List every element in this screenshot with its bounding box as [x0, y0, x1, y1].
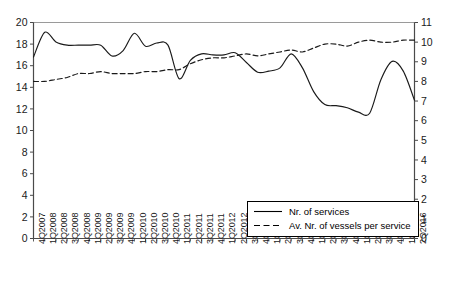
y-axis-left-tick-label: 16	[16, 59, 28, 71]
y-axis-left-tick-label: 4	[22, 189, 28, 201]
chart-container: 02468101214161820 01234567891011 4Q20071…	[0, 0, 465, 300]
y-axis-right-tick-label: 0	[421, 232, 427, 244]
y-axis-right-tick-label: 5	[421, 134, 427, 146]
y-axis-right-tick-label: 7	[421, 95, 427, 107]
legend-label-services: Nr. of services	[289, 205, 349, 219]
y-axis-right-tick-label: 3	[421, 173, 427, 185]
legend-key-dashed-line-icon	[253, 221, 283, 230]
y-axis-left-tick-label: 12	[16, 103, 28, 115]
y-axis-left-tick-label: 8	[22, 146, 28, 158]
y-axis-right-tick-label: 4	[421, 154, 427, 166]
y-axis-left-tick-label: 14	[16, 81, 28, 93]
chart-plot-area: 02468101214161820 01234567891011	[0, 0, 465, 300]
y-axis-left-tick-label: 0	[22, 232, 28, 244]
y-axis-right-tick-label: 1	[421, 213, 427, 225]
legend-key-solid-line-icon	[253, 207, 283, 216]
legend-item-services: Nr. of services	[253, 205, 411, 219]
legend-item-vessels: Av. Nr. of vessels per service	[253, 219, 411, 233]
y-axis-right-tick-label: 2	[421, 193, 427, 205]
y-axis-right-tick-label: 6	[421, 114, 427, 126]
y-axis-right-tick-label: 11	[421, 16, 432, 28]
y-axis-left-tick-label: 10	[16, 124, 28, 136]
y-axis-left-tick-label: 20	[16, 16, 28, 28]
chart-legend: Nr. of services Av. Nr. of vessels per s…	[247, 201, 419, 237]
y-axis-right-tick-label: 10	[421, 36, 433, 48]
y-axis-left-ticks: 02468101214161820	[16, 16, 34, 244]
y-axis-left-tick-label: 6	[22, 167, 28, 179]
y-axis-right-tick-label: 8	[421, 75, 427, 87]
y-axis-left-tick-label: 18	[16, 38, 28, 50]
legend-label-vessels: Av. Nr. of vessels per service	[289, 219, 411, 233]
y-axis-left-tick-label: 2	[22, 211, 28, 223]
y-axis-right-tick-label: 9	[421, 55, 427, 67]
